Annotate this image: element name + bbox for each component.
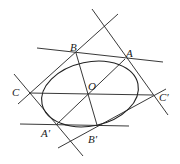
tangent-at-B (37, 48, 163, 62)
conjugate-diameters-diagram: B A C O C′ A′ B′ (0, 0, 180, 164)
line-C-top (18, 14, 118, 104)
tangent-at-Ap (14, 74, 83, 156)
tangent-at-A (92, 9, 168, 115)
label-C-prime: C′ (159, 92, 169, 103)
tangent-at-Bp (20, 124, 129, 126)
label-B: B (70, 42, 77, 53)
line-CCp (29, 93, 153, 95)
label-A: A (126, 48, 133, 59)
label-O: O (88, 81, 96, 92)
label-C: C (12, 87, 19, 98)
label-B-prime: B′ (88, 134, 97, 145)
line-Cp-bottom (58, 89, 166, 148)
label-A-prime: A′ (41, 128, 50, 139)
